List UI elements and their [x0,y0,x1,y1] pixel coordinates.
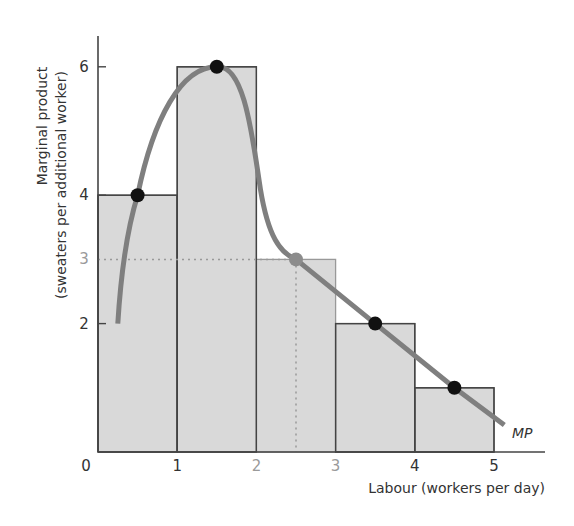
x-ticks: 012345 [81,457,499,475]
y-tick-label: 4 [79,186,89,204]
data-point [289,252,303,266]
data-point [368,317,382,331]
x-tick-label: 3 [331,457,341,475]
bar-0-1 [98,195,177,452]
y-axis-title-line2: (sweaters per additional worker) [53,71,69,299]
data-point [210,60,224,74]
bar-4-5 [415,388,494,452]
x-tick-label: 0 [81,457,91,475]
y-tick-label: 6 [79,58,89,76]
x-axis-title: Labour (workers per day) [368,480,545,496]
y-tick-label: 3 [79,250,89,268]
y-axis-title-line1: Marginal product [34,66,50,185]
data-point [447,381,461,395]
x-tick-label: 5 [489,457,499,475]
y-tick-label: 2 [79,315,89,333]
mp-label: MP [512,425,533,441]
x-tick-label: 2 [252,457,262,475]
marginal-product-chart: 2346 012345 MP Labour (workers per day) … [0,0,574,526]
x-tick-label: 1 [172,457,182,475]
x-tick-label: 4 [410,457,420,475]
data-point [131,188,145,202]
